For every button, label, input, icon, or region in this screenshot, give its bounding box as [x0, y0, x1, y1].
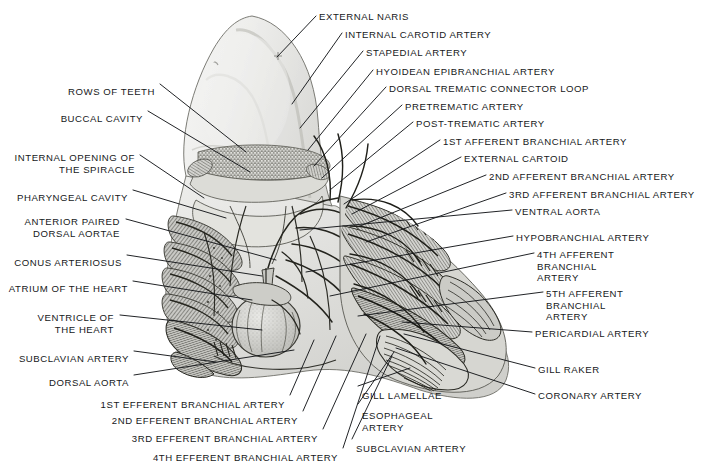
label-line: HYOIDEAN EPIBRANCHIAL ARTERY: [376, 66, 555, 78]
label-line: PERICARDIAL ARTERY: [535, 328, 649, 340]
label-line: 1ST AFFERENT BRANCHIAL ARTERY: [443, 136, 627, 148]
label-line: PRETREMATIC ARTERY: [405, 101, 524, 113]
label-1st-efferent-branchial-artery: 1ST EFFERENT BRANCHIAL ARTERY: [101, 399, 285, 411]
label-gill-lamellae: GILL LAMELLAE: [362, 390, 442, 402]
label-pharyngeal-cavity: PHARYNGEAL CAVITY: [17, 192, 128, 204]
label-line: 2ND EFFERENT BRANCHIAL ARTERY: [112, 415, 298, 427]
label-esophageal-artery: ESOPHAGEALARTERY: [362, 410, 433, 433]
label-1st-afferent-branchial-artery: 1ST AFFERENT BRANCHIAL ARTERY: [443, 136, 627, 148]
label-stapedial-artery: STAPEDIAL ARTERY: [366, 47, 467, 59]
label-line: INTERNAL OPENING OF: [15, 152, 135, 164]
label-line: THE SPIRACLE: [15, 164, 135, 176]
label-line: VENTRICLE OF: [38, 312, 114, 324]
label-pericardial-artery: PERICARDIAL ARTERY: [535, 328, 649, 340]
label-line: PHARYNGEAL CAVITY: [17, 192, 128, 204]
label-line: SUBCLAVIAN ARTERY: [19, 353, 129, 365]
label-coronary-artery: CORONARY ARTERY: [538, 390, 642, 402]
label-line: EXTERNAL NARIS: [319, 11, 409, 23]
label-line: POST-TREMATIC ARTERY: [416, 118, 545, 130]
label-atrium-of-the-heart: ATRIUM OF THE HEART: [9, 283, 128, 295]
label-3rd-efferent-branchial-artery: 3RD EFFERENT BRANCHIAL ARTERY: [132, 433, 318, 445]
label-line: SUBCLAVIAN ARTERY: [356, 443, 466, 455]
label-dorsal-aorta: DORSAL AORTA: [49, 377, 129, 389]
anatomical-figure: ROWS OF TEETHBUCCAL CAVITYINTERNAL OPENI…: [0, 0, 711, 463]
label-line: 3RD AFFERENT BRANCHIAL ARTERY: [509, 189, 695, 201]
label-ventral-aorta: VENTRAL AORTA: [515, 206, 600, 218]
label-line: ARTERY: [362, 422, 433, 434]
label-line: DORSAL AORTAE: [25, 228, 121, 240]
label-subclavian-artery-bottom: SUBCLAVIAN ARTERY: [356, 443, 466, 455]
label-gill-raker: GILL RAKER: [538, 364, 600, 376]
label-line: ATRIUM OF THE HEART: [9, 283, 128, 295]
label-4th-efferent-branchial-artery: 4TH EFFERENT BRANCHIAL ARTERY: [153, 452, 338, 463]
label-line: ARTERY: [546, 311, 624, 323]
label-hyoidean-epibranchial-artery: HYOIDEAN EPIBRANCHIAL ARTERY: [376, 66, 555, 78]
label-line: HYPOBRANCHIAL ARTERY: [516, 232, 649, 244]
label-line: GILL RAKER: [538, 364, 600, 376]
label-line: 1ST EFFERENT BRANCHIAL ARTERY: [101, 399, 285, 411]
label-conus-arteriosus: CONUS ARTERIOSUS: [14, 257, 122, 269]
label-3rd-afferent-branchial-artery: 3RD AFFERENT BRANCHIAL ARTERY: [509, 189, 695, 201]
label-line: STAPEDIAL ARTERY: [366, 47, 467, 59]
label-2nd-efferent-branchial-artery: 2ND EFFERENT BRANCHIAL ARTERY: [112, 415, 298, 427]
label-line: THE HEART: [38, 324, 114, 336]
label-line: EXTERNAL CARTOID: [464, 153, 569, 165]
label-2nd-afferent-branchial-artery: 2ND AFFERENT BRANCHIAL ARTERY: [489, 171, 675, 183]
label-line: ROWS OF TEETH: [68, 86, 155, 98]
label-line: ARTERY: [537, 272, 615, 284]
label-dorsal-trematic-connector-loop: DORSAL TREMATIC CONNECTOR LOOP: [389, 83, 589, 95]
label-line: 5TH AFFERENT: [546, 288, 624, 300]
label-line: BUCCAL CAVITY: [61, 113, 143, 125]
label-line: 3RD EFFERENT BRANCHIAL ARTERY: [132, 433, 318, 445]
label-line: ANTERIOR PAIRED: [25, 216, 121, 228]
label-external-cartoid: EXTERNAL CARTOID: [464, 153, 569, 165]
label-internal-opening-spiracle: INTERNAL OPENING OFTHE SPIRACLE: [15, 152, 135, 175]
label-hypobranchial-artery: HYPOBRANCHIAL ARTERY: [516, 232, 649, 244]
label-rows-of-teeth: ROWS OF TEETH: [68, 86, 155, 98]
label-line: INTERNAL CAROTID ARTERY: [345, 29, 491, 41]
label-line: 2ND AFFERENT BRANCHIAL ARTERY: [489, 171, 675, 183]
label-post-trematic-artery: POST-TREMATIC ARTERY: [416, 118, 545, 130]
label-internal-carotid-artery: INTERNAL CAROTID ARTERY: [345, 29, 491, 41]
label-ventricle-of-the-heart: VENTRICLE OFTHE HEART: [38, 312, 114, 335]
label-external-naris: EXTERNAL NARIS: [319, 11, 409, 23]
label-5th-afferent-branchial-artery: 5TH AFFERENTBRANCHIALARTERY: [546, 288, 624, 323]
label-line: 4TH EFFERENT BRANCHIAL ARTERY: [153, 452, 338, 463]
label-buccal-cavity: BUCCAL CAVITY: [61, 113, 143, 125]
label-anterior-paired-dorsal-aortae: ANTERIOR PAIREDDORSAL AORTAE: [25, 216, 121, 239]
label-line: ESOPHAGEAL: [362, 410, 433, 422]
label-line: GILL LAMELLAE: [362, 390, 442, 402]
label-pretrematic-artery: PRETREMATIC ARTERY: [405, 101, 524, 113]
label-4th-afferent-branchial-artery: 4TH AFFERENTBRANCHIALARTERY: [537, 249, 615, 284]
label-line: DORSAL TREMATIC CONNECTOR LOOP: [389, 83, 589, 95]
label-line: BRANCHIAL: [546, 300, 624, 312]
label-line: VENTRAL AORTA: [515, 206, 600, 218]
label-line: DORSAL AORTA: [49, 377, 129, 389]
label-subclavian-artery-left: SUBCLAVIAN ARTERY: [19, 353, 129, 365]
label-line: CONUS ARTERIOSUS: [14, 257, 122, 269]
label-line: CORONARY ARTERY: [538, 390, 642, 402]
label-line: BRANCHIAL: [537, 261, 615, 273]
label-line: 4TH AFFERENT: [537, 249, 615, 261]
